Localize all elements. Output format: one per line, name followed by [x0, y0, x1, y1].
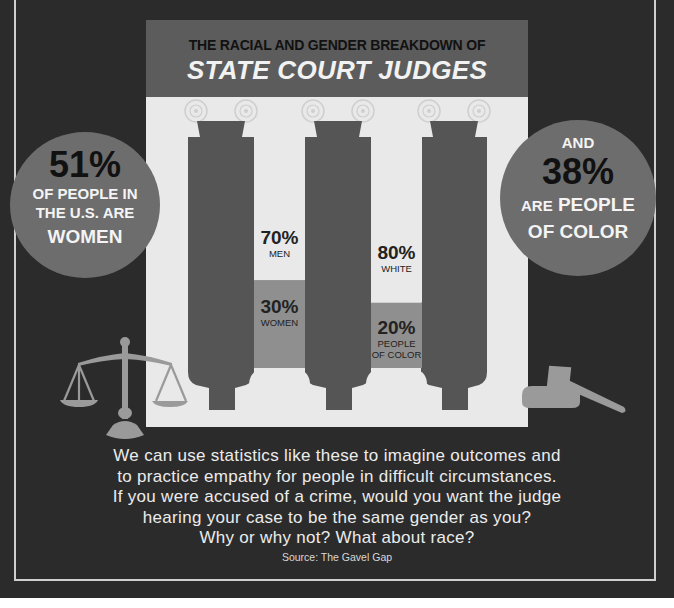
- bar-label-women: 30% WOMEN: [254, 297, 305, 328]
- header-subtitle: THE RACIAL AND GENDER BREAKDOWN OF: [146, 37, 528, 53]
- men-caption: MEN: [254, 248, 305, 259]
- gavel-icon: [520, 360, 630, 425]
- scales-of-justice-icon: [58, 335, 188, 445]
- women-population-callout: 51% OF PEOPLE IN THE U.S. ARE WOMEN: [10, 132, 160, 278]
- callout-line-2: THE U.S. ARE: [10, 203, 160, 222]
- column-base-gap: [249, 369, 310, 427]
- callout-line-1: OF PEOPLE IN: [10, 184, 160, 203]
- women-population-percent: 51%: [10, 146, 160, 184]
- paragraph-line: to practice empathy for people in diffic…: [20, 467, 654, 488]
- paragraph-line: We can use statistics like these to imag…: [20, 446, 654, 467]
- callout-line-3: WOMEN: [10, 226, 160, 248]
- ionic-scroll-icon: [477, 109, 481, 113]
- ionic-scroll-icon: [194, 109, 198, 113]
- white-percent: 80%: [371, 243, 422, 263]
- women-caption: WOMEN: [254, 317, 305, 328]
- ionic-scroll-icon: [361, 109, 365, 113]
- white-caption: WHITE: [371, 263, 422, 274]
- callout-prefix: AND: [500, 134, 656, 151]
- people-of-color-caption-2: OF COLOR: [366, 349, 427, 360]
- header-banner: THE RACIAL AND GENDER BREAKDOWN OF STATE…: [146, 20, 528, 97]
- callout-people: PEOPLE: [558, 194, 635, 215]
- paragraph-line: Why or why not? What about race?: [20, 528, 654, 549]
- frame-border-right: [654, 0, 656, 581]
- pillar-chart: [146, 97, 528, 427]
- bar-label-white: 80% WHITE: [371, 243, 422, 274]
- header-title: STATE COURT JUDGES: [146, 55, 528, 86]
- reflection-paragraph: We can use statistics like these to imag…: [20, 446, 654, 549]
- paragraph-line: If you were accused of a crime, would yo…: [20, 487, 654, 508]
- source-citation: Source: The Gavel Gap: [20, 551, 654, 563]
- column-2: [305, 121, 371, 410]
- ionic-scroll-icon: [244, 109, 248, 113]
- column-base-gap: [366, 369, 427, 427]
- people-of-color-caption-1: PEOPLE: [366, 338, 427, 349]
- bar-label-men: 70% MEN: [254, 228, 305, 259]
- column-3: [421, 121, 487, 410]
- callout-are: ARE: [521, 197, 553, 214]
- frame-border-bottom: [14, 579, 656, 581]
- people-of-color-population-callout: AND 38% ARE PEOPLE OF COLOR: [500, 120, 656, 276]
- column-1: [188, 121, 254, 410]
- callout-line-1: ARE PEOPLE: [500, 193, 656, 218]
- bar-label-people-of-color: 20% PEOPLE OF COLOR: [366, 318, 427, 360]
- bar-segment-white: [371, 137, 422, 303]
- people-of-color-percent: 20%: [366, 318, 427, 338]
- callout-line-2: OF COLOR: [500, 220, 656, 244]
- people-of-color-population-percent: 38%: [500, 153, 656, 191]
- ionic-scroll-icon: [427, 109, 431, 113]
- paragraph-line: hearing your case to be the same gender …: [20, 508, 654, 529]
- men-percent: 70%: [254, 228, 305, 248]
- ionic-scroll-icon: [311, 109, 315, 113]
- frame-border-left: [14, 0, 16, 581]
- women-percent: 30%: [254, 297, 305, 317]
